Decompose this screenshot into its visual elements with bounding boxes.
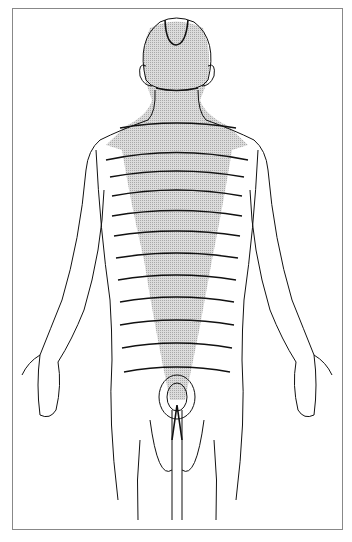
dermatome-illustration xyxy=(0,0,352,542)
